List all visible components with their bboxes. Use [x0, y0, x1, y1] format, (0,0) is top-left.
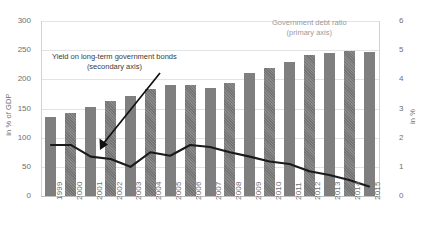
- x-axis-line: [41, 196, 380, 197]
- x-tick-label: 2013: [333, 181, 342, 200]
- x-tick-label: 1999: [55, 181, 64, 200]
- x-tick-label: 2001: [95, 181, 104, 200]
- annotation-bond-yield-line2: (secondary axis): [52, 62, 177, 72]
- y-tick-primary: 50: [5, 163, 31, 171]
- x-tick-label: 2012: [313, 181, 322, 200]
- x-tick-label: 2009: [254, 181, 263, 200]
- y-tick-secondary: 0: [399, 192, 413, 200]
- y-tick-primary: 200: [5, 75, 31, 83]
- annotation-bond-yield-line1: Yield on long-term government bonds: [52, 52, 177, 62]
- y-tick-primary: 150: [5, 105, 31, 113]
- x-tick-label: 2008: [234, 181, 243, 200]
- x-tick-label: 2005: [174, 181, 183, 200]
- x-tick-label: 2014: [353, 181, 362, 200]
- y-axis-title-secondary: in %: [408, 97, 417, 137]
- y-tick-secondary: 3: [399, 105, 413, 113]
- x-tick-label: 2010: [274, 181, 283, 200]
- x-tick-label: 2007: [214, 181, 223, 200]
- y-tick-primary: 250: [5, 46, 31, 54]
- y-tick-primary: 300: [5, 17, 31, 25]
- y-tick-secondary: 2: [399, 134, 413, 142]
- y-axis-line-secondary: [379, 21, 380, 197]
- x-tick-label: 2006: [194, 181, 203, 200]
- x-tick-label: 2015: [373, 181, 382, 200]
- y-tick-secondary: 5: [399, 46, 413, 54]
- y-tick-secondary: 1: [399, 163, 413, 171]
- chart-container: in % of GDP in % 300250200150100500 6543…: [0, 0, 430, 241]
- x-tick-label: 2000: [75, 181, 84, 200]
- annotation-debt-ratio-line2: (primary axis): [272, 28, 347, 38]
- x-tick-label: 2011: [294, 182, 303, 200]
- annotation-bond-yield: Yield on long-term government bonds (sec…: [52, 52, 177, 72]
- x-tick-label: 2003: [134, 181, 143, 200]
- x-tick-label: 2002: [115, 181, 124, 200]
- annotation-debt-ratio: Government debt ratio (primary axis): [272, 18, 347, 38]
- x-tick-label: 2004: [154, 181, 163, 200]
- y-tick-primary: 100: [5, 134, 31, 142]
- line-series-bond-yield: [41, 21, 379, 196]
- plot-area: [41, 21, 379, 196]
- y-tick-primary: 0: [5, 192, 31, 200]
- annotation-debt-ratio-line1: Government debt ratio: [272, 18, 347, 28]
- y-tick-secondary: 6: [399, 17, 413, 25]
- y-tick-secondary: 4: [399, 75, 413, 83]
